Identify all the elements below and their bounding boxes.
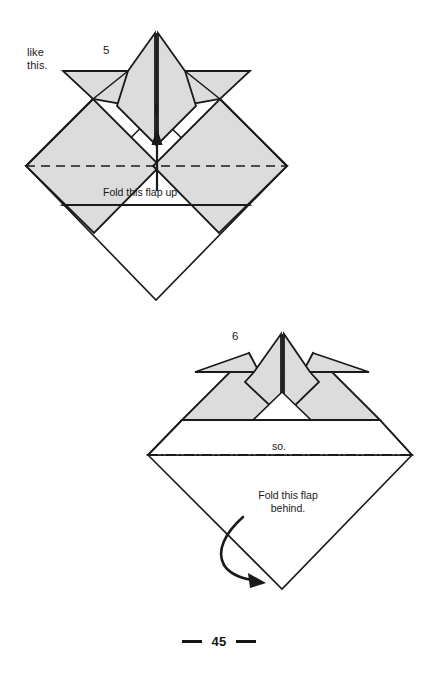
footer-rule-left-icon <box>182 640 202 643</box>
step6-lower-body <box>148 455 412 589</box>
footer-rule-right-icon <box>236 640 256 643</box>
step-6-number: 6 <box>232 330 238 342</box>
page-footer: 45 <box>0 634 438 649</box>
step-6-so-note: so. <box>272 440 286 453</box>
page-number: 45 <box>211 634 226 649</box>
step-6-diagram <box>0 0 438 698</box>
page-canvas: like this. 5 Fold this flap up <box>0 0 438 698</box>
step-6-caption: Fold this flap behind. <box>238 489 338 515</box>
